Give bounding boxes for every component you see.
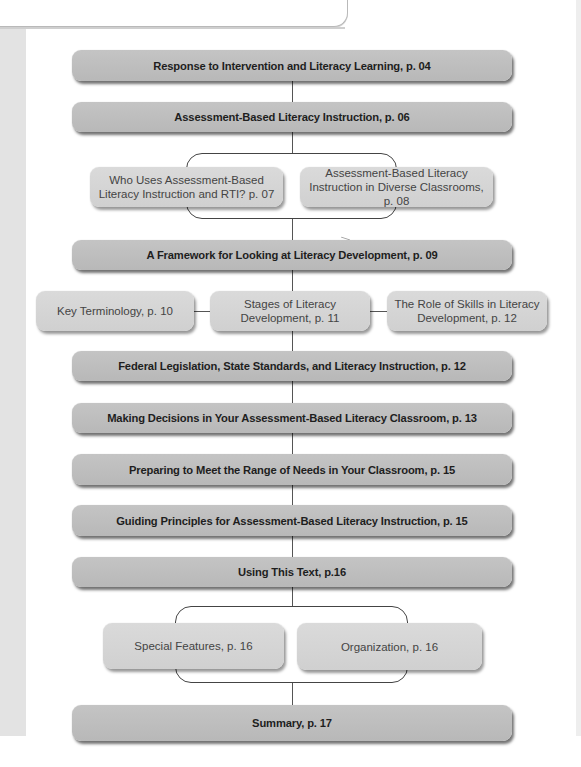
connector xyxy=(292,682,293,705)
node-label: Special Features, p. 16 xyxy=(134,639,252,653)
connector xyxy=(292,536,293,557)
node-label: Who Uses Assessment-Based Literacy Instr… xyxy=(96,173,277,201)
connector xyxy=(292,433,293,454)
node-label: Organization, p. 16 xyxy=(341,640,438,654)
connector xyxy=(292,331,293,351)
node-guiding-principles: Guiding Principles for Assessment-Based … xyxy=(72,505,512,536)
connector xyxy=(194,311,210,312)
connector xyxy=(292,132,293,153)
node-who-uses-abli: Who Uses Assessment-Based Literacy Instr… xyxy=(90,167,283,207)
connector xyxy=(370,311,387,312)
node-label: Key Terminology, p. 10 xyxy=(57,304,173,318)
node-label: A Framework for Looking at Literacy Deve… xyxy=(146,249,437,261)
node-label: Summary, p. 17 xyxy=(252,717,332,729)
node-organization: Organization, p. 16 xyxy=(297,623,482,670)
node-label: Assessment-Based Literacy Instruction, p… xyxy=(174,111,409,123)
connector xyxy=(292,81,293,102)
connector xyxy=(292,381,293,403)
node-label: Guiding Principles for Assessment-Based … xyxy=(116,515,467,527)
right-margin-strip xyxy=(576,0,581,736)
node-label: Preparing to Meet the Range of Needs in … xyxy=(129,464,455,476)
node-making-decisions: Making Decisions in Your Assessment-Base… xyxy=(72,403,512,433)
node-assessment-based-instruction: Assessment-Based Literacy Instruction, p… xyxy=(72,102,512,132)
connector xyxy=(292,485,293,505)
node-framework: A Framework for Looking at Literacy Deve… xyxy=(72,240,512,270)
node-abli-diverse-classrooms: Assessment-Based Literacy Instruction in… xyxy=(300,167,493,207)
node-preparing-range-needs: Preparing to Meet the Range of Needs in … xyxy=(72,454,512,485)
node-rti-literacy-learning: Response to Intervention and Literacy Le… xyxy=(72,50,512,81)
node-role-of-skills: The Role of Skills in Literacy Developme… xyxy=(387,291,547,331)
node-key-terminology: Key Terminology, p. 10 xyxy=(36,291,194,331)
node-using-this-text: Using This Text, p.16 xyxy=(72,557,512,587)
node-label: Federal Legislation, State Standards, an… xyxy=(118,360,466,372)
node-label: Stages of Literacy Development, p. 11 xyxy=(236,297,344,325)
node-label: Using This Text, p.16 xyxy=(238,566,346,578)
connector xyxy=(292,587,293,606)
top-divider xyxy=(0,27,345,29)
node-label: Response to Intervention and Literacy Le… xyxy=(153,60,430,72)
left-margin-strip xyxy=(0,29,26,736)
node-special-features: Special Features, p. 16 xyxy=(103,623,284,669)
node-label: The Role of Skills in Literacy Developme… xyxy=(393,297,541,325)
node-federal-legislation: Federal Legislation, State Standards, an… xyxy=(72,351,512,381)
node-label: Assessment-Based Literacy Instruction in… xyxy=(306,166,487,208)
node-label: Making Decisions in Your Assessment-Base… xyxy=(107,412,477,424)
connector xyxy=(292,218,293,240)
top-panel xyxy=(0,0,348,27)
node-summary: Summary, p. 17 xyxy=(72,705,512,741)
node-stages-literacy-development: Stages of Literacy Development, p. 11 xyxy=(210,291,370,331)
connector xyxy=(292,270,293,291)
